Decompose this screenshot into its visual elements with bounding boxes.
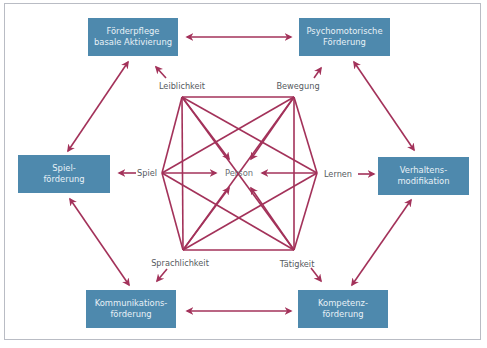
box-verhalten-line2: modifikation xyxy=(397,176,449,187)
label-taetigkeit: Tätigkeit xyxy=(280,259,315,269)
label-lernen: Lernen xyxy=(324,169,352,179)
box-spielfoerderung-line2: förderung xyxy=(43,174,84,185)
box-foerderpflege-line1: Förderpflege xyxy=(106,26,159,37)
label-spiel: Spiel xyxy=(137,168,157,178)
box-kommunikation-line1: Kommunikations- xyxy=(95,298,168,309)
box-foerderpflege: Förderpflege basale Aktivierung xyxy=(88,18,178,56)
center-person-label: Person xyxy=(225,168,253,178)
box-verhalten-line1: Verhaltens- xyxy=(400,165,447,176)
box-kompetenzfoerderung: Kompetenz- förderung xyxy=(298,290,388,328)
box-psychomotorik: Psychomotorische Förderung xyxy=(299,18,390,56)
box-spielfoerderung: Spiel- förderung xyxy=(18,155,110,193)
box-spielfoerderung-line1: Spiel- xyxy=(52,163,75,174)
box-kompetenz-line2: förderung xyxy=(322,309,363,320)
box-psychomotorik-line2: Förderung xyxy=(323,37,366,48)
label-leiblichkeit: Leiblichkeit xyxy=(159,81,205,91)
box-verhaltensmodifikation: Verhaltens- modifikation xyxy=(378,157,469,195)
box-kommunikation-line2: förderung xyxy=(110,309,151,320)
box-psychomotorik-line1: Psychomotorische xyxy=(306,26,382,37)
box-foerderpflege-line2: basale Aktivierung xyxy=(94,37,172,48)
box-kompetenz-line1: Kompetenz- xyxy=(318,298,368,309)
label-sprachlichkeit: Sprachlichkeit xyxy=(151,258,209,268)
label-bewegung: Bewegung xyxy=(276,81,319,91)
box-kommunikationsfoerderung: Kommunikations- förderung xyxy=(86,290,176,328)
